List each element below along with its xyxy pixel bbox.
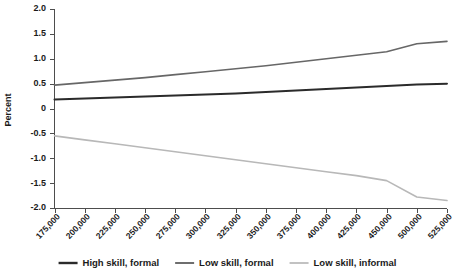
x-axis-tick-label: 175,000 — [34, 211, 62, 240]
x-axis-tick-label: 225,000 — [94, 211, 122, 240]
series-line-0 — [55, 84, 448, 100]
x-axis-tick-label: 450,000 — [366, 211, 394, 240]
y-axis-title: Percent — [3, 93, 13, 126]
y-axis-tick-label: -1.5 — [30, 178, 46, 188]
series-line-2 — [55, 136, 448, 201]
y-axis-tick-label: 0 — [41, 103, 46, 113]
legend-label-1: Low skill, formal — [199, 257, 273, 268]
x-axis-tick-label: 525,000 — [426, 211, 454, 240]
y-axis-tick-label: 1.5 — [33, 28, 46, 38]
x-axis-tick-label: 400,000 — [305, 211, 333, 240]
series-lines — [55, 41, 448, 200]
x-axis-tick-label: 350,000 — [245, 211, 273, 240]
y-axis-tick-labels: 2.01.51.00.50-0.5-1.0-1.5-2.0 — [30, 3, 46, 212]
x-axis-tick-label: 300,000 — [184, 211, 212, 240]
x-axis-tick-label: 250,000 — [124, 211, 152, 240]
x-axis-tick-label: 275,000 — [154, 211, 182, 240]
y-axis-tick-label: -0.5 — [30, 128, 46, 138]
x-axis-tick-label: 200,000 — [64, 211, 92, 240]
chart-container: Percent 2.01.51.00.50-0.5-1.0-1.5-2.0 17… — [0, 0, 455, 276]
chart-legend: High skill, formalLow skill, formalLow s… — [59, 257, 397, 268]
x-axis-tick-label: 500,000 — [396, 211, 424, 240]
y-axis-tick-label: 2.0 — [33, 3, 46, 13]
x-axis-tick-label: 375,000 — [275, 211, 303, 240]
x-axis-tick-label: 425,000 — [335, 211, 363, 240]
x-axis-tick-label: 325,000 — [215, 211, 243, 240]
y-axis-tick-label: -1.0 — [30, 153, 46, 163]
y-axis-tick-label: 1.0 — [33, 53, 46, 63]
legend-label-2: Low skill, informal — [314, 257, 397, 268]
y-axis-title-group: Percent — [3, 93, 13, 126]
y-axis-tick-label: -2.0 — [30, 202, 46, 212]
x-axis-tick-labels: 175,000200,000225,000250,000275,000300,0… — [34, 211, 454, 240]
line-chart: Percent 2.01.51.00.50-0.5-1.0-1.5-2.0 17… — [0, 0, 455, 276]
series-line-1 — [55, 41, 448, 85]
y-axis-tick-label: 0.5 — [33, 78, 46, 88]
y-axis-tick-marks — [50, 10, 55, 209]
legend-label-0: High skill, formal — [83, 257, 160, 268]
